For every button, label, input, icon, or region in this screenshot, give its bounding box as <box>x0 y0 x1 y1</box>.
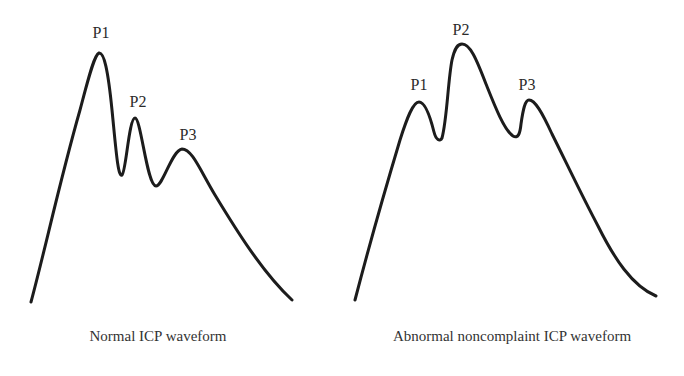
normal-p2-label: P2 <box>130 93 147 110</box>
normal-waveform-caption: Normal ICP waveform <box>90 328 227 345</box>
abnormal-waveform-caption: Abnormal noncomplaint ICP waveform <box>393 328 631 345</box>
abnormal-p3-label: P3 <box>519 76 536 93</box>
waveform-diagram: P1 P2 P3 P1 P2 P3 <box>0 0 684 376</box>
normal-icp-waveform-curve <box>31 53 292 302</box>
normal-p3-label: P3 <box>180 126 197 143</box>
abnormal-p2-label: P2 <box>453 21 470 38</box>
abnormal-icp-waveform-curve <box>355 44 656 300</box>
normal-p1-label: P1 <box>93 24 110 41</box>
abnormal-p1-label: P1 <box>411 76 428 93</box>
